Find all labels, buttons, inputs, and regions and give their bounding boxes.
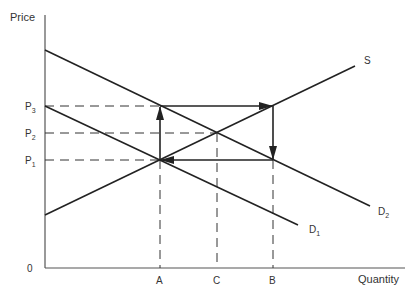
x-axis-label: Quantity <box>358 273 399 285</box>
axes <box>45 15 405 268</box>
d1-label: D1 <box>309 224 320 237</box>
quantity-c-label: C <box>213 275 220 286</box>
demand-curve-d1 <box>45 106 298 225</box>
supply-demand-diagram: Price Quantity 0 P3 P2 P1 A C B S D2 D1 <box>0 0 416 300</box>
supply-curve-s <box>45 66 355 215</box>
p1-label: P1 <box>25 155 36 168</box>
d2-label: D2 <box>378 206 389 219</box>
quantity-b-label: B <box>269 275 276 286</box>
quantity-a-label: A <box>156 275 163 286</box>
curves <box>45 50 370 225</box>
origin-label: 0 <box>27 263 33 274</box>
guide-lines <box>45 106 273 268</box>
supply-label: S <box>364 55 371 66</box>
p3-label: P3 <box>25 101 36 114</box>
y-axis-label: Price <box>10 11 35 23</box>
p2-label: P2 <box>25 128 36 141</box>
